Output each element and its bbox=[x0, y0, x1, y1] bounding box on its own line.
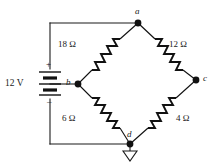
polarity-plus-label: + bbox=[46, 60, 51, 69]
resistor-12-ohm bbox=[138, 23, 196, 80]
resistor-6-ohm bbox=[78, 84, 130, 144]
circuit-diagram: a b c d 18 Ω 12 Ω 6 Ω 4 Ω 12 V + – bbox=[0, 0, 214, 167]
resistor-4-ohm bbox=[130, 80, 196, 144]
resistor-label-6-ohm: 6 Ω bbox=[62, 114, 75, 123]
resistor-label-12-ohm: 12 Ω bbox=[169, 40, 187, 49]
resistor-label-4-ohm: 4 Ω bbox=[176, 114, 189, 123]
resistor-18-ohm-zigzag bbox=[92, 39, 120, 70]
resistor-18-ohm bbox=[78, 23, 138, 84]
node-label-a: a bbox=[135, 7, 140, 16]
node-dot-b bbox=[75, 81, 82, 88]
resistor-4-ohm-lead-lower bbox=[130, 128, 148, 144]
resistor-4-ohm-zigzag bbox=[148, 98, 176, 128]
resistor-label-18-ohm: 18 Ω bbox=[58, 40, 76, 49]
resistor-12-ohm-lead-upper bbox=[138, 23, 155, 39]
circuit-schematic-svg bbox=[0, 0, 214, 167]
battery-symbol bbox=[39, 72, 61, 95]
resistor-6-ohm-zigzag bbox=[92, 98, 120, 128]
ground-triangle-icon bbox=[123, 151, 137, 161]
node-dot-d bbox=[127, 141, 134, 148]
node-dot-c bbox=[193, 77, 200, 84]
source-label-12v: 12 V bbox=[5, 79, 24, 89]
node-label-b: b bbox=[66, 78, 71, 87]
node-dot-a bbox=[135, 20, 142, 27]
resistor-4-ohm-lead-upper bbox=[176, 80, 196, 98]
polarity-minus-label: – bbox=[47, 97, 52, 106]
node-label-c: c bbox=[203, 74, 207, 83]
node-label-d: d bbox=[127, 130, 132, 139]
resistor-18-ohm-lead-upper bbox=[120, 23, 138, 39]
